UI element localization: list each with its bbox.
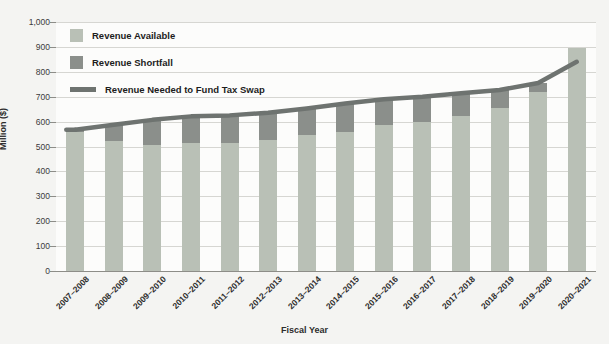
y-axis-tick-label: 100 bbox=[8, 241, 50, 251]
x-axis-tick-label: 2009–2010 bbox=[131, 274, 168, 311]
bar-segment-revenue-shortfall bbox=[491, 90, 509, 108]
bar-segment-revenue-shortfall bbox=[452, 93, 470, 116]
bar-segment-revenue-available bbox=[221, 143, 239, 271]
y-axis-tick-label: 700 bbox=[8, 92, 50, 102]
y-axis-tick-label: 400 bbox=[8, 166, 50, 176]
bar-segment-revenue-available bbox=[375, 125, 393, 271]
y-axis-tick-label: 900 bbox=[8, 42, 50, 52]
bar-segment-revenue-available bbox=[491, 108, 509, 271]
y-axis-tick-label: 1,000 bbox=[8, 17, 50, 27]
legend-item-revenue-needed: Revenue Needed to Fund Tax Swap bbox=[70, 78, 370, 100]
bar-group bbox=[221, 115, 239, 271]
x-axis-tick-label: 2019–2020 bbox=[517, 274, 554, 311]
y-axis-tick-label: 800 bbox=[8, 67, 50, 77]
legend-item-revenue-available: Revenue Available bbox=[70, 24, 370, 46]
x-axis-tick-label: 2016–2017 bbox=[401, 274, 438, 311]
bar-group bbox=[66, 130, 84, 271]
gridline bbox=[56, 271, 596, 272]
bar-segment-revenue-available bbox=[298, 135, 316, 271]
bar-group bbox=[568, 48, 586, 271]
legend-swatch-shortfall-icon bbox=[70, 56, 83, 69]
y-axis-tick-label: 300 bbox=[8, 191, 50, 201]
bar-segment-revenue-shortfall bbox=[143, 120, 161, 145]
y-axis-tick-label: 200 bbox=[8, 216, 50, 226]
bar-group bbox=[529, 83, 547, 271]
bar-segment-revenue-shortfall bbox=[529, 83, 547, 92]
bar-segment-revenue-available bbox=[182, 143, 200, 271]
x-axis-tick-label: 2012–2013 bbox=[247, 274, 284, 311]
bar-segment-revenue-shortfall bbox=[259, 113, 277, 140]
y-axis-tick-label: 600 bbox=[8, 117, 50, 127]
bar-segment-revenue-available bbox=[259, 140, 277, 271]
bar-segment-revenue-available bbox=[413, 122, 431, 271]
bar-group bbox=[413, 97, 431, 271]
bar-segment-revenue-available bbox=[66, 132, 84, 271]
bar-group bbox=[259, 113, 277, 271]
bar-segment-revenue-shortfall bbox=[105, 125, 123, 141]
bar-segment-revenue-available bbox=[105, 141, 123, 271]
bar-group bbox=[143, 120, 161, 271]
bar-group bbox=[491, 90, 509, 271]
bar-segment-revenue-available bbox=[452, 116, 470, 271]
bar-segment-revenue-available bbox=[568, 48, 586, 271]
bar-segment-revenue-shortfall bbox=[66, 130, 84, 132]
bar-group bbox=[336, 103, 354, 271]
bar-group bbox=[375, 99, 393, 271]
x-axis-tick-label: 2020–2021 bbox=[556, 274, 593, 311]
x-axis-tick-label: 2014–2015 bbox=[324, 274, 361, 311]
x-axis-tick-label: 2007–2008 bbox=[54, 274, 91, 311]
legend-label-needed: Revenue Needed to Fund Tax Swap bbox=[105, 84, 265, 95]
legend-item-revenue-shortfall: Revenue Shortfall bbox=[70, 51, 370, 73]
y-axis-tick-label: 0 bbox=[8, 266, 50, 276]
legend-swatch-line-icon bbox=[70, 87, 96, 92]
x-axis-tick-label: 2015–2016 bbox=[363, 274, 400, 311]
x-axis-tick-label: 2013–2014 bbox=[286, 274, 323, 311]
chart-legend: Revenue Available Revenue Shortfall Reve… bbox=[70, 24, 370, 105]
legend-label-available: Revenue Available bbox=[92, 30, 175, 41]
x-axis-tick-labels: 2007–20082008–20092009–20102010–20112011… bbox=[56, 274, 596, 334]
legend-swatch-available-icon bbox=[70, 29, 83, 42]
bar-segment-revenue-shortfall bbox=[182, 116, 200, 143]
y-tick-dash bbox=[50, 271, 56, 272]
bar-group bbox=[105, 125, 123, 271]
bar-segment-revenue-shortfall bbox=[336, 103, 354, 131]
bar-segment-revenue-shortfall bbox=[375, 99, 393, 124]
y-axis-title: Million ($) bbox=[0, 108, 8, 150]
bar-segment-revenue-available bbox=[529, 92, 547, 271]
bar-group bbox=[182, 116, 200, 271]
bar-segment-revenue-shortfall bbox=[221, 115, 239, 143]
legend-label-shortfall: Revenue Shortfall bbox=[92, 57, 173, 68]
x-axis-tick-label: 2011–2012 bbox=[209, 274, 246, 311]
bar-segment-revenue-available bbox=[143, 145, 161, 271]
bar-group bbox=[298, 108, 316, 271]
chart-figure: Million ($) Fiscal Year 1,00090080070060… bbox=[0, 0, 609, 344]
bar-segment-revenue-shortfall bbox=[413, 97, 431, 122]
x-axis-tick-label: 2008–2009 bbox=[93, 274, 130, 311]
x-axis-tick-label: 2010–2011 bbox=[170, 274, 207, 311]
bar-segment-revenue-available bbox=[336, 132, 354, 271]
y-axis-tick-label: 500 bbox=[8, 142, 50, 152]
bar-group bbox=[452, 93, 470, 271]
x-axis-tick-label: 2017–2018 bbox=[440, 274, 477, 311]
bar-segment-revenue-shortfall bbox=[298, 108, 316, 134]
x-axis-tick-label: 2018–2019 bbox=[478, 274, 515, 311]
